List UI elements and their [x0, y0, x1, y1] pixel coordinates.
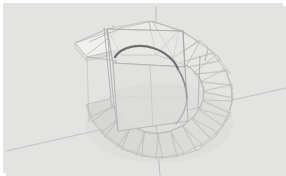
model-canvas-3d-view[interactable]	[3, 3, 286, 176]
floor-shadow	[85, 83, 233, 163]
viewport-frame: 3D Model Viewport Spiral Staircase persp…	[0, 0, 286, 176]
viewport-root: 3D Model Viewport Spiral Staircase persp…	[0, 0, 286, 176]
